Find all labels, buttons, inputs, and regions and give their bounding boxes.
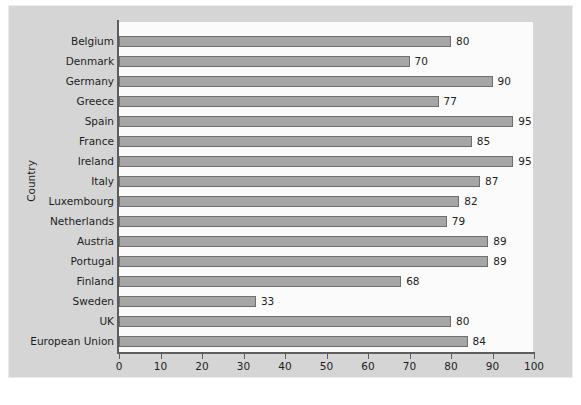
- x-axis-tick-mark: [119, 354, 120, 359]
- bar: [119, 36, 451, 47]
- bar-value-label: 70: [415, 54, 428, 68]
- y-axis-tick-label: UK: [8, 315, 114, 328]
- bar: [119, 76, 493, 87]
- bar: [119, 176, 480, 187]
- y-axis-tick-labels: BelgiumDenmarkGermanyGreeceSpainFranceIr…: [8, 22, 114, 352]
- bar-value-label: 82: [464, 194, 477, 208]
- bar-value-label: 85: [477, 134, 490, 148]
- y-axis-tick-label: Spain: [8, 115, 114, 128]
- x-axis-tick-mark: [202, 354, 203, 359]
- y-axis-tick-label: Ireland: [8, 155, 114, 168]
- x-axis-tick-mark: [534, 354, 535, 359]
- bar-row: 33: [119, 292, 534, 313]
- bar-value-label: 87: [485, 174, 498, 188]
- x-axis-tick-label: 0: [116, 360, 123, 373]
- bar: [119, 336, 468, 347]
- bar: [119, 56, 410, 67]
- y-axis-tick-label: Finland: [8, 275, 114, 288]
- bar-row: 85: [119, 132, 534, 153]
- bar-row: 89: [119, 252, 534, 273]
- x-axis-tick-label: 20: [195, 360, 208, 373]
- bar-row: 80: [119, 312, 534, 333]
- bar: [119, 196, 459, 207]
- bar: [119, 116, 513, 127]
- x-axis-tick-label: 90: [486, 360, 499, 373]
- bar: [119, 256, 488, 267]
- bar-row: 68: [119, 272, 534, 293]
- x-axis-tick-mark: [327, 354, 328, 359]
- y-axis-tick-label: Portugal: [8, 255, 114, 268]
- x-axis-tick-mark: [285, 354, 286, 359]
- y-axis-tick-label: Austria: [8, 235, 114, 248]
- bar: [119, 316, 451, 327]
- y-axis-tick-label: France: [8, 135, 114, 148]
- bar-value-label: 68: [406, 274, 419, 288]
- bar-row: 79: [119, 212, 534, 233]
- bar-value-label: 80: [456, 314, 469, 328]
- x-axis-tick-mark: [368, 354, 369, 359]
- bar-row: 70: [119, 52, 534, 73]
- bar: [119, 276, 401, 287]
- bar-value-label: 89: [493, 254, 506, 268]
- y-axis-tick-label: Italy: [8, 175, 114, 188]
- x-axis-ticks: 0102030405060708090100: [118, 354, 534, 380]
- bar-value-label: 84: [473, 334, 486, 348]
- bar-row: 87: [119, 172, 534, 193]
- bar-value-label: 80: [456, 34, 469, 48]
- bar: [119, 156, 513, 167]
- x-axis-tick-mark: [161, 354, 162, 359]
- y-axis-tick-label: Sweden: [8, 295, 114, 308]
- x-axis-tick-mark: [493, 354, 494, 359]
- y-axis-tick-label: Netherlands: [8, 215, 114, 228]
- bar-row: 77: [119, 92, 534, 113]
- bar-value-label: 95: [518, 114, 531, 128]
- bar: [119, 216, 447, 227]
- bar-series: 80709077958595878279898968338084: [119, 22, 534, 352]
- bar-row: 95: [119, 112, 534, 133]
- bar-value-label: 33: [261, 294, 274, 308]
- x-axis-tick-label: 40: [278, 360, 291, 373]
- bar-row: 89: [119, 232, 534, 253]
- bar-row: 95: [119, 152, 534, 173]
- bar: [119, 236, 488, 247]
- x-axis-tick-mark: [410, 354, 411, 359]
- bar-row: 90: [119, 72, 534, 93]
- bar-row: 84: [119, 332, 534, 353]
- y-axis-tick-label: European Union: [8, 335, 114, 348]
- x-axis-tick-label: 50: [320, 360, 333, 373]
- bar-value-label: 89: [493, 234, 506, 248]
- x-axis-tick-label: 30: [237, 360, 250, 373]
- chart-figure-panel: BelgiumDenmarkGermanyGreeceSpainFranceIr…: [8, 5, 573, 378]
- bar-value-label: 90: [498, 74, 511, 88]
- x-axis-tick-label: 100: [524, 360, 544, 373]
- bar-row: 80: [119, 32, 534, 53]
- x-axis-tick-label: 60: [361, 360, 374, 373]
- bar: [119, 136, 472, 147]
- bar-row: 82: [119, 192, 534, 213]
- y-axis-tick-label: Luxembourg: [8, 195, 114, 208]
- y-axis-tick-label: Germany: [8, 75, 114, 88]
- x-axis-tick-mark: [244, 354, 245, 359]
- x-axis-tick-label: 80: [444, 360, 457, 373]
- y-axis-tick-label: Belgium: [8, 35, 114, 48]
- bar-value-label: 77: [444, 94, 457, 108]
- y-axis-tick-label: Denmark: [8, 55, 114, 68]
- bar: [119, 296, 256, 307]
- bar-value-label: 79: [452, 214, 465, 228]
- y-axis-title: Country: [25, 151, 37, 211]
- x-axis-tick-mark: [451, 354, 452, 359]
- bar-value-label: 95: [518, 154, 531, 168]
- x-axis-tick-label: 70: [403, 360, 416, 373]
- bar: [119, 96, 439, 107]
- x-axis-tick-label: 10: [154, 360, 167, 373]
- y-axis-tick-label: Greece: [8, 95, 114, 108]
